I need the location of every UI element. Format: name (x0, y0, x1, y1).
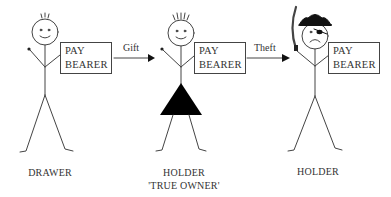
cheque-line-pay: PAY (65, 44, 108, 58)
caption-line: HOLDER (258, 165, 378, 178)
cheque-line-bearer: BEARER (199, 58, 242, 72)
drawer-left-hand (27, 47, 30, 50)
thief-right-leg (315, 96, 342, 150)
true-owner-cheque: PAY BEARER (194, 42, 246, 74)
thief-head (302, 23, 328, 49)
true-owner-stick-figure (156, 13, 206, 151)
caption-line: DRAWER (0, 166, 110, 179)
gift-arrow-label: Gift (123, 42, 139, 53)
drawer-caption: DRAWER (0, 166, 110, 179)
drawer-left-leg (20, 95, 45, 152)
drawer-right-arm (45, 55, 60, 67)
drawer-hair-icon (41, 13, 49, 18)
pirate-hat-icon (299, 15, 331, 26)
thief-caption: HOLDER (258, 165, 378, 178)
drawer-stick-figure (20, 13, 73, 152)
true-owner-right-leg (189, 115, 206, 151)
thief-frown-face-icon (310, 29, 327, 42)
triangle-dress-icon (160, 83, 202, 115)
cheque-line-bearer: BEARER (333, 58, 376, 72)
sword-icon (293, 7, 297, 49)
cheque-line-bearer: BEARER (65, 58, 108, 72)
true-owner-left-arm (163, 50, 181, 67)
drawer-left-arm (30, 50, 45, 67)
true-owner-smile-face-icon (176, 30, 186, 39)
drawer-smile-face-icon (40, 29, 50, 38)
true-owner-right-arm (181, 56, 194, 67)
thief-stick-figure (288, 7, 342, 151)
drawer-right-leg (45, 95, 73, 151)
theft-arrow-label: Theft (254, 42, 276, 53)
drawer-head (32, 19, 58, 45)
thief-cheque: PAY BEARER (328, 42, 380, 74)
gift-arrow-icon (114, 54, 155, 62)
true-owner-left-hand (160, 47, 163, 50)
caption-line: 'TRUE OWNER' (124, 179, 244, 192)
true-owner-hair-icon (173, 13, 189, 20)
theft-arrow-icon (247, 54, 290, 62)
thief-left-leg (288, 96, 315, 151)
cheque-line-pay: PAY (333, 44, 376, 58)
cheque-line-pay: PAY (199, 44, 242, 58)
true-owner-left-leg (156, 115, 173, 151)
true-owner-caption: HOLDER 'TRUE OWNER' (124, 166, 244, 192)
drawer-cheque: PAY BEARER (60, 42, 112, 74)
sword-hilt (294, 45, 298, 51)
thief-left-arm (297, 51, 315, 66)
true-owner-head (168, 20, 194, 46)
caption-line: HOLDER (124, 166, 244, 179)
thief-right-arm (315, 55, 329, 66)
